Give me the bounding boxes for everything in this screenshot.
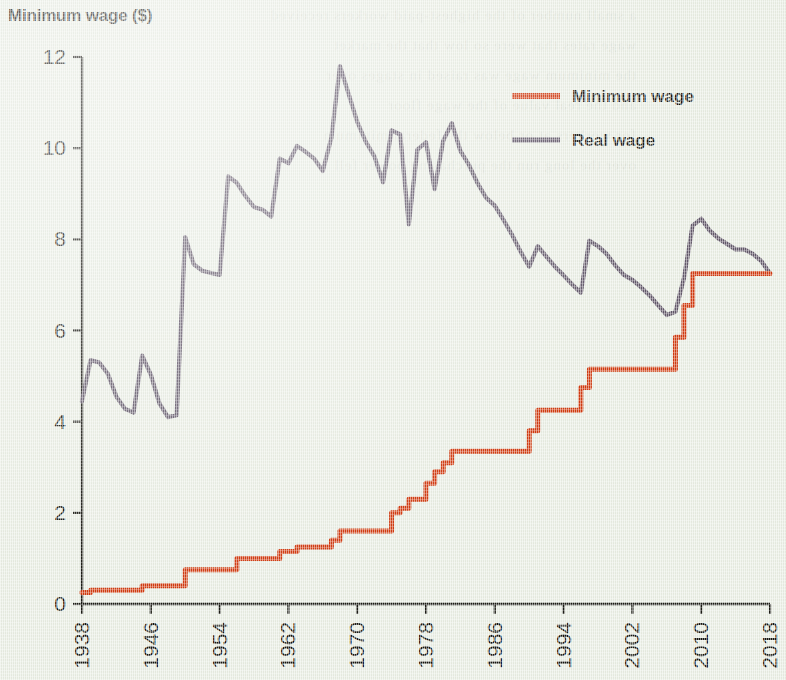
y-tick-labels: 024681012 (43, 45, 67, 615)
y-tick-label: 10 (43, 136, 66, 159)
y-tick-label: 0 (54, 592, 66, 615)
minimum-wage-chart: Minimum wage ($) 024681012 1938194619541… (0, 0, 786, 680)
y-tick-label: 2 (54, 501, 66, 524)
chart-legend: Minimum wage Real wage (512, 87, 694, 150)
x-tick-labels: 1938194619541962197019781986199420022010… (70, 622, 781, 669)
x-tick-label: 1946 (139, 622, 162, 669)
x-tick-label: 1986 (483, 622, 506, 669)
x-tick-label: 2018 (758, 622, 781, 669)
x-tick-label: 1938 (70, 622, 93, 669)
chart-plot-area: 024681012 193819461954196219701978198619… (0, 0, 786, 680)
y-tick-label: 12 (43, 45, 66, 68)
x-tick-label: 1962 (276, 622, 299, 669)
y-tick-marks (73, 57, 82, 604)
x-tick-label: 1954 (208, 622, 231, 669)
x-tick-marks (82, 604, 770, 614)
series-line-minimum-wage (82, 274, 770, 593)
legend-label-minimum-wage: Minimum wage (572, 87, 694, 106)
x-tick-label: 2002 (620, 622, 643, 669)
y-tick-label: 8 (54, 227, 66, 250)
legend-label-real-wage: Real wage (572, 131, 655, 150)
x-tick-label: 1978 (414, 622, 437, 669)
y-tick-label: 4 (54, 410, 66, 433)
x-tick-label: 2010 (689, 622, 712, 669)
x-tick-label: 1994 (552, 622, 575, 669)
y-tick-label: 6 (54, 319, 66, 342)
series-line-real-wage (82, 66, 770, 417)
x-tick-label: 1970 (345, 622, 368, 669)
